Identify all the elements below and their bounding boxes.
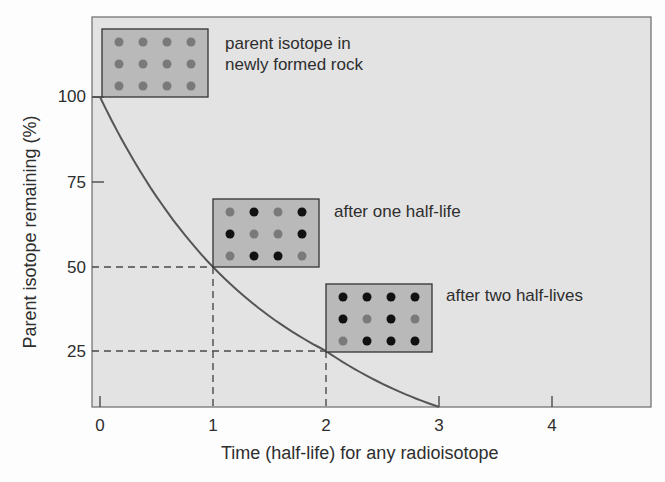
parent-atom-icon [187,38,196,47]
daughter-atom-icon [298,208,307,217]
parent-atom-icon [139,38,148,47]
daughter-atom-icon [387,337,396,346]
parent-atom-icon [163,82,172,91]
x-tick-4: 4 [542,417,562,434]
annotation-line: newly formed rock [225,54,363,75]
x-tick-3: 3 [429,417,449,434]
parent-atom-icon [139,82,148,91]
parent-atom-icon [226,252,235,261]
daughter-atom-icon [339,315,348,324]
daughter-atom-icon [226,230,235,239]
annotation-one-half-life: after one half-life [334,201,461,222]
parent-atom-icon [274,230,283,239]
daughter-atom-icon [411,293,420,302]
x-axis-title: Time (half-life) for any radioisotope [221,443,498,464]
parent-atom-icon [187,82,196,91]
parent-atom-icon [339,337,348,346]
parent-atom-icon [115,38,124,47]
y-tick-100: 100 [46,88,86,105]
parent-atom-icon [226,208,235,217]
daughter-atom-icon [274,252,283,261]
daughter-atom-icon [387,315,396,324]
daughter-atom-icon [339,293,348,302]
parent-atom-icon [411,315,420,324]
daughter-atom-icon [250,208,259,217]
parent-atom-icon [274,208,283,217]
parent-atom-icon [139,60,148,69]
daughter-atom-icon [387,293,396,302]
parent-atom-icon [298,252,307,261]
parent-atom-icon [363,315,372,324]
y-tick-25: 25 [46,343,86,360]
x-tick-0: 0 [90,417,110,434]
parent-atom-icon [250,230,259,239]
parent-atom-icon [187,60,196,69]
annotation-newly-formed: parent isotope in newly formed rock [225,33,363,75]
daughter-atom-icon [298,230,307,239]
y-tick-50: 50 [46,259,86,276]
parent-atom-icon [163,60,172,69]
daughter-atom-icon [411,337,420,346]
daughter-atom-icon [363,337,372,346]
parent-atom-icon [163,38,172,47]
y-tick-75: 75 [46,174,86,191]
annotation-line: parent isotope in [225,33,363,54]
x-tick-2: 2 [316,417,336,434]
y-axis-title: Parent isotope remaining (%) [20,115,41,348]
parent-atom-icon [115,60,124,69]
parent-atom-icon [115,82,124,91]
x-tick-1: 1 [203,417,223,434]
daughter-atom-icon [363,293,372,302]
annotation-two-half-lives: after two half-lives [446,285,583,306]
daughter-atom-icon [250,252,259,261]
